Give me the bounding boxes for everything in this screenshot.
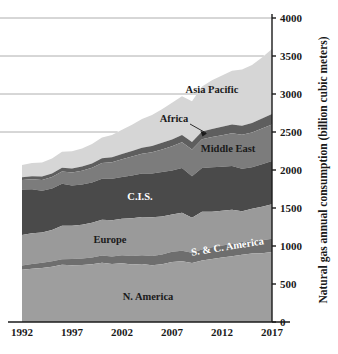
chart-canvas: 05001000150020002500300035004000 1992199… (0, 0, 338, 354)
series-label-n-america: N. America (123, 291, 174, 302)
y-tick-label-1500: 1500 (280, 202, 303, 214)
series-label-middle-east: Middle East (201, 143, 256, 154)
series-label-europe: Europe (93, 234, 126, 245)
x-tick-label-2007: 2007 (161, 326, 184, 338)
y-tick-label-3000: 3000 (280, 88, 303, 100)
y-tick-label-500: 500 (280, 278, 297, 290)
x-tick-label-2002: 2002 (111, 326, 134, 338)
stacked-area-chart: 05001000150020002500300035004000 1992199… (0, 0, 338, 354)
x-tick-label-2012: 2012 (211, 326, 234, 338)
y-tick-label-1000: 1000 (280, 240, 303, 252)
x-tick-labels-group: 199219972002200720122017 (11, 326, 284, 338)
y-tick-label-2500: 2500 (280, 126, 303, 138)
series-label-africa: Africa (160, 113, 189, 124)
series-label-asia-pacific: Asia Pacific (186, 84, 239, 95)
x-tick-label-1992: 1992 (11, 326, 34, 338)
x-tick-label-2017: 2017 (261, 326, 284, 338)
y-tick-label-2000: 2000 (280, 164, 303, 176)
x-tick-label-1997: 1997 (61, 326, 84, 338)
y-tick-labels-group: 05001000150020002500300035004000 (280, 12, 303, 328)
series-label-c-i-s: C.I.S. (127, 191, 153, 202)
y-axis-title-group: Natural gas annual consumption (billion … (317, 36, 330, 303)
y-tick-label-3500: 3500 (280, 50, 303, 62)
y-tick-label-4000: 4000 (280, 12, 303, 24)
y-axis-title: Natural gas annual consumption (billion … (317, 36, 330, 303)
